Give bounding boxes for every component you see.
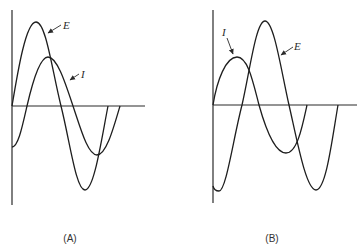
- panel-b-i-arrow: [227, 38, 233, 54]
- panel-b-caption: (B): [265, 233, 278, 244]
- panel-a: E I (A): [12, 10, 145, 244]
- phase-diagram: E I (A) I E (B): [0, 0, 362, 252]
- panel-a-e-label: E: [62, 19, 70, 31]
- panel-b: I E (B): [213, 10, 357, 244]
- panel-b-curve-e: [213, 21, 338, 191]
- panel-b-i-label: I: [221, 26, 227, 38]
- panel-a-i-arrow: [70, 74, 79, 80]
- panel-b-e-label: E: [293, 40, 301, 52]
- panel-a-caption: (A): [63, 233, 76, 244]
- panel-a-e-arrow: [48, 25, 61, 33]
- panel-b-e-arrow: [281, 47, 293, 55]
- panel-a-i-label: I: [80, 68, 86, 80]
